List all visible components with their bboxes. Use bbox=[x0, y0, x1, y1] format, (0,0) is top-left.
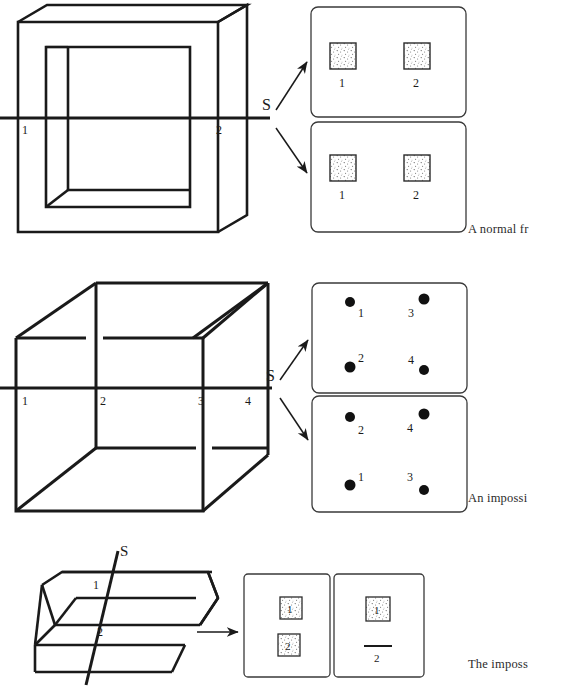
section-dot bbox=[419, 409, 430, 420]
section-square-label: 1 bbox=[287, 603, 293, 615]
arrow-cube-upper bbox=[280, 340, 308, 380]
row-impossible-cube: 1 2 3 4 S 1 3 2 4 2 bbox=[0, 283, 467, 512]
section-dot bbox=[419, 485, 429, 495]
section-square bbox=[330, 43, 356, 69]
section-dot-label: 3 bbox=[407, 470, 413, 484]
section-square-label: 2 bbox=[285, 640, 291, 652]
section-dot-label: 2 bbox=[358, 423, 364, 437]
row-normal-frame: 1 2 S 1 2 1 2 bbox=[0, 5, 466, 232]
diagram-canvas: 1 2 S 1 2 1 2 bbox=[0, 0, 561, 689]
section-square-label: 2 bbox=[413, 188, 419, 202]
crossing-label-cube-2: 2 bbox=[100, 394, 106, 408]
arrow-normal-upper bbox=[276, 62, 307, 110]
section-dot bbox=[345, 412, 355, 422]
crossing-label-prism-1: 1 bbox=[93, 578, 99, 592]
section-dot-label: 2 bbox=[358, 351, 364, 365]
section-square bbox=[330, 155, 356, 181]
section-square-label: 1 bbox=[374, 604, 380, 616]
crossing-label-cube-3: 3 bbox=[198, 394, 204, 408]
impossible-prism-drawing bbox=[35, 572, 218, 672]
section-square bbox=[404, 155, 430, 181]
section-dot-label: 3 bbox=[408, 306, 414, 320]
section-dot-label: 4 bbox=[407, 421, 413, 435]
panel-normal-upper: 1 2 bbox=[311, 7, 466, 117]
panel-prism-right: 1 2 bbox=[334, 574, 424, 677]
section-square-label: 1 bbox=[339, 76, 345, 90]
crossing-label-normal-2: 2 bbox=[216, 123, 222, 137]
section-letter-normal: S bbox=[262, 96, 271, 113]
section-square bbox=[404, 43, 430, 69]
impossible-cube-drawing bbox=[16, 283, 268, 511]
crossing-label-cube-1: 1 bbox=[22, 394, 28, 408]
crossing-label-cube-4: 4 bbox=[245, 394, 251, 408]
section-dot bbox=[345, 480, 356, 491]
caption-impossible-prism: The imposs bbox=[468, 657, 528, 672]
section-letter-cube: S bbox=[266, 367, 275, 384]
row-impossible-prism: S 1 2 1 2 1 2 bbox=[35, 543, 424, 685]
section-bar-label: 2 bbox=[374, 652, 380, 664]
panel-cube-upper: 1 3 2 4 bbox=[312, 283, 467, 393]
caption-normal-frame: A normal fr bbox=[468, 222, 529, 237]
section-letter-prism: S bbox=[120, 543, 128, 559]
figure-root: 1 2 S 1 2 1 2 bbox=[0, 0, 561, 689]
section-dot-label: 1 bbox=[358, 470, 364, 484]
section-square-label: 1 bbox=[339, 188, 345, 202]
section-square-label: 2 bbox=[413, 76, 419, 90]
arrow-cube-lower bbox=[280, 398, 308, 440]
arrow-normal-lower bbox=[276, 128, 307, 173]
section-dot bbox=[345, 362, 356, 373]
section-dot-label: 1 bbox=[358, 306, 364, 320]
crossing-label-prism-2: 2 bbox=[97, 625, 103, 639]
section-dot bbox=[345, 297, 355, 307]
caption-impossible-cube: An impossi bbox=[468, 491, 527, 506]
crossing-label-normal-1: 1 bbox=[22, 123, 28, 137]
section-dot bbox=[419, 365, 429, 375]
panel-prism-left: 1 2 bbox=[244, 574, 330, 677]
panel-cube-lower: 2 4 1 3 bbox=[312, 396, 467, 512]
section-dot bbox=[419, 294, 430, 305]
section-dot-label: 4 bbox=[408, 353, 414, 367]
panel-normal-lower: 1 2 bbox=[311, 122, 466, 232]
